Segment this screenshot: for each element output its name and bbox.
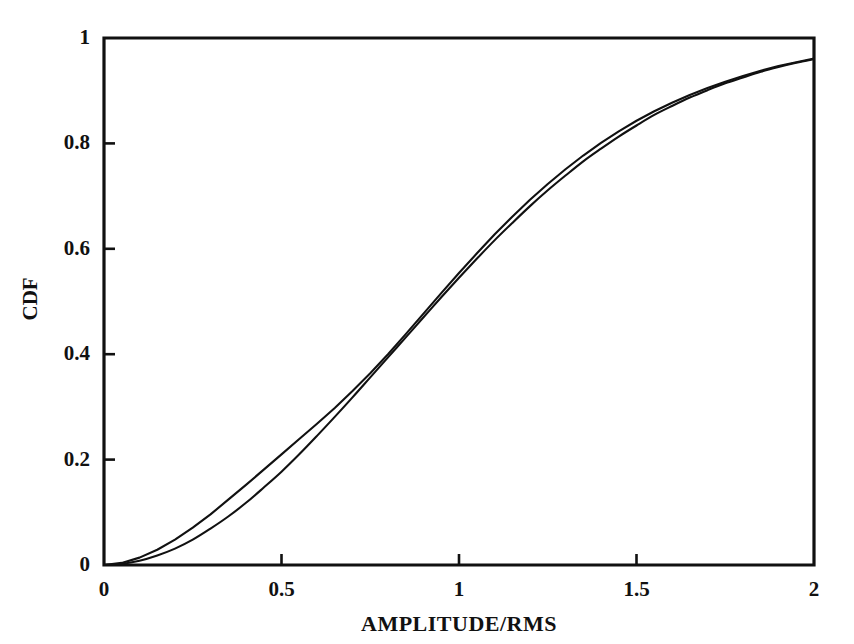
y-tick-label: 0.4 <box>64 343 90 364</box>
y-tick-label: 1 <box>80 27 91 48</box>
x-tick-label: 0 <box>74 579 134 600</box>
x-tick-label: 0.5 <box>252 579 312 600</box>
series-line-theoretical-cdf <box>104 59 814 565</box>
y-tick-label: 0.6 <box>64 238 90 259</box>
plot-border <box>104 38 814 565</box>
axis-frame <box>104 38 814 565</box>
y-tick-label: 0.2 <box>64 449 90 470</box>
y-tick-label: 0 <box>80 554 91 575</box>
x-tick-label: 1 <box>429 579 489 600</box>
tick-marks <box>104 143 637 565</box>
plot-canvas <box>0 0 854 644</box>
data-series-layer <box>104 59 814 565</box>
y-axis-title: CDF <box>20 280 41 320</box>
x-tick-label: 2 <box>784 579 844 600</box>
y-tick-label: 0.8 <box>64 132 90 153</box>
series-line-measured-cdf <box>104 59 814 565</box>
x-axis-title: AMPLITUDE/RMS <box>0 613 854 635</box>
cdf-chart-figure: 00.20.40.60.81 00.511.52 CDF AMPLITUDE/R… <box>0 0 854 644</box>
x-tick-label: 1.5 <box>607 579 667 600</box>
